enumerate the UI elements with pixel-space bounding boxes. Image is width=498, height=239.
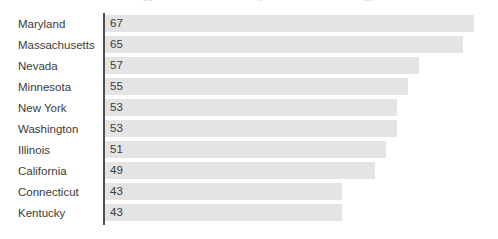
bar [105,183,342,200]
bar [105,204,342,221]
bar [105,120,397,137]
category-label: Illinois [18,140,50,161]
bar-value-label: 43 [110,183,123,200]
clipped-axis-tick-strip: 20 40 60 [0,0,498,7]
bar-row: Illinois 51 [0,140,498,161]
category-label: Minnesota [18,77,71,98]
bar-rows: Maryland 67 Massachusetts 65 Nevada 57 [0,14,498,224]
bar-row: Kentucky 43 [0,203,498,224]
clipped-tick-label: 40 [253,0,263,3]
category-label: Washington [18,119,78,140]
bar-row: Massachusetts 65 [0,35,498,56]
bar [105,141,386,158]
category-label: Massachusetts [18,35,95,56]
category-label: Maryland [18,14,65,35]
bar-value-label: 53 [110,120,123,137]
clipped-tick-label: 20 [143,0,153,3]
bar-value-label: 55 [110,78,123,95]
plot-area: Maryland 67 Massachusetts 65 Nevada 57 [0,8,498,232]
bar [105,15,474,32]
category-label: Kentucky [18,203,65,224]
bar [105,162,375,179]
bar-row: Nevada 57 [0,56,498,77]
bar [105,99,397,116]
category-label: California [18,161,67,182]
bar [105,36,463,53]
bar-value-label: 53 [110,99,123,116]
clipped-tick-label: 60 [363,0,373,3]
category-label: Connecticut [18,182,79,203]
bar [105,78,408,95]
category-label: New York [18,98,67,119]
bar-row: Connecticut 43 [0,182,498,203]
bar [105,57,419,74]
bar-row: Minnesota 55 [0,77,498,98]
bar-value-label: 49 [110,162,123,179]
category-label: Nevada [18,56,58,77]
bar-row: Maryland 67 [0,14,498,35]
bar-row: Washington 53 [0,119,498,140]
bar-value-label: 51 [110,141,123,158]
bar-row: California 49 [0,161,498,182]
bar-value-label: 57 [110,57,123,74]
bar-value-label: 65 [110,36,123,53]
horizontal-bar-chart: 20 40 60 Maryland 67 Massachusetts 65 [0,0,498,239]
bar-value-label: 67 [110,15,123,32]
bar-row: New York 53 [0,98,498,119]
bar-value-label: 43 [110,204,123,221]
